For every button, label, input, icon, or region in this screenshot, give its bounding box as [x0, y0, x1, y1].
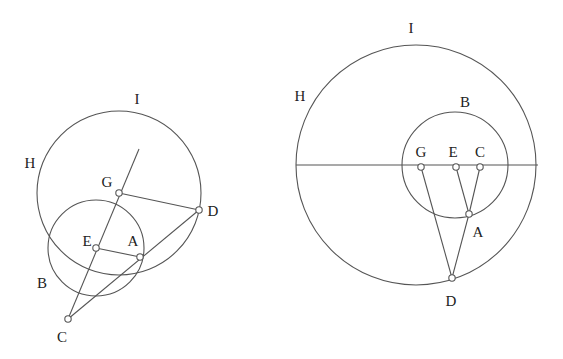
right-point-e: [453, 164, 459, 170]
left-point-d: [196, 207, 202, 213]
left-figure: IHGDEABC: [25, 91, 219, 345]
left-segment-e-a: [96, 248, 140, 257]
right-segment-c-a: [469, 167, 480, 214]
right-point-a: [466, 211, 472, 217]
right-label-b: B: [460, 94, 470, 110]
left-label-g: G: [102, 174, 113, 190]
right-label-g: G: [416, 144, 427, 160]
right-label-h: H: [295, 88, 306, 104]
right-segment-g-d: [421, 167, 452, 278]
right-point-g: [418, 164, 424, 170]
left-label-h: H: [25, 155, 36, 171]
left-point-c: [65, 316, 71, 322]
right-label-i: I: [409, 20, 414, 36]
left-label-a: A: [128, 233, 139, 249]
left-point-a: [137, 254, 143, 260]
right-label-e: E: [448, 144, 457, 160]
right-label-a: A: [473, 224, 484, 240]
left-label-b: B: [37, 275, 47, 291]
right-point-c: [477, 164, 483, 170]
left-segment-g-d: [119, 193, 199, 210]
right-figure: IHBGECAD: [295, 20, 538, 309]
left-label-i: I: [135, 91, 140, 107]
left-segment-c-d: [68, 210, 199, 319]
left-label-d: D: [208, 203, 219, 219]
left-label-c: C: [57, 329, 67, 345]
right-label-d: D: [446, 293, 457, 309]
left-label-e: E: [82, 233, 91, 249]
right-point-d: [449, 275, 455, 281]
diagram-canvas: IHGDEABC IHBGECAD: [0, 0, 563, 359]
right-segment-a-d: [452, 214, 469, 278]
right-label-c: C: [475, 144, 485, 160]
left-point-e: [93, 245, 99, 251]
left-point-g: [116, 190, 122, 196]
right-segment-e-a: [456, 167, 469, 214]
